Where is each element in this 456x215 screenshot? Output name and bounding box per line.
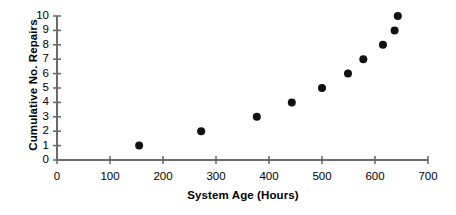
x-tick-label: 400 [249, 171, 289, 183]
y-tick-label: 5 [23, 82, 49, 94]
data-point [253, 113, 261, 121]
data-point [318, 84, 326, 92]
x-tick-label: 500 [302, 171, 342, 183]
x-tick-label: 600 [355, 171, 395, 183]
y-tick-label: 8 [23, 39, 49, 51]
data-point [288, 98, 296, 106]
x-tick-label: 0 [37, 171, 77, 183]
x-tick-label: 100 [90, 171, 130, 183]
plot-area [0, 0, 456, 215]
y-tick-label: 2 [23, 125, 49, 137]
data-point [394, 12, 402, 20]
x-tick-label: 300 [196, 171, 236, 183]
y-tick-label: 4 [23, 96, 49, 108]
y-tick-label: 6 [23, 68, 49, 80]
data-point [197, 127, 205, 135]
data-points [135, 12, 402, 150]
y-tick-label: 7 [23, 53, 49, 65]
x-tick-label: 200 [143, 171, 183, 183]
data-point [359, 55, 367, 63]
y-tick-label: 10 [23, 10, 49, 22]
data-point [344, 70, 352, 78]
y-tick-label: 0 [23, 154, 49, 166]
axes [57, 16, 428, 160]
x-tick-label: 700 [408, 171, 448, 183]
y-tick-label: 3 [23, 111, 49, 123]
y-tick-label: 1 [23, 140, 49, 152]
data-point [135, 142, 143, 150]
axis-ticks [53, 16, 428, 164]
chart-figure: Cumulative No. Repairs System Age (Hours… [0, 0, 456, 215]
data-point [379, 41, 387, 49]
y-tick-label: 9 [23, 24, 49, 36]
data-point [391, 26, 399, 34]
